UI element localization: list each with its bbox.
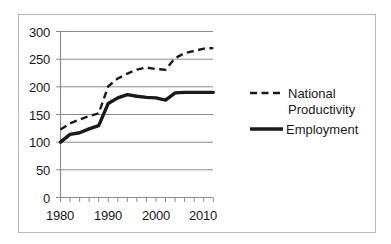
y-tick-label-50: 50	[16, 163, 50, 178]
y-tick-label-0: 0	[16, 191, 50, 206]
x-axis-ticks	[61, 198, 214, 203]
series-line-national-productivity	[61, 48, 214, 129]
x-tick-label-2000: 2000	[134, 208, 178, 223]
legend-label-employment: Employment	[286, 122, 358, 137]
y-axis-ticks	[56, 32, 61, 198]
y-tick-label-150: 150	[16, 108, 50, 123]
x-tick-label-2010: 2010	[181, 208, 225, 223]
x-tick-label-1990: 1990	[86, 208, 130, 223]
y-tick-label-300: 300	[16, 25, 50, 40]
y-tick-label-100: 100	[16, 135, 50, 150]
legend-label-national-productivity-line2: Productivity	[288, 102, 355, 117]
legend-label-national-productivity-line1: National	[288, 86, 336, 101]
x-tick-label-1980: 1980	[38, 208, 82, 223]
y-tick-label-200: 200	[16, 80, 50, 95]
y-tick-label-250: 250	[16, 52, 50, 67]
gridlines	[60, 32, 213, 198]
